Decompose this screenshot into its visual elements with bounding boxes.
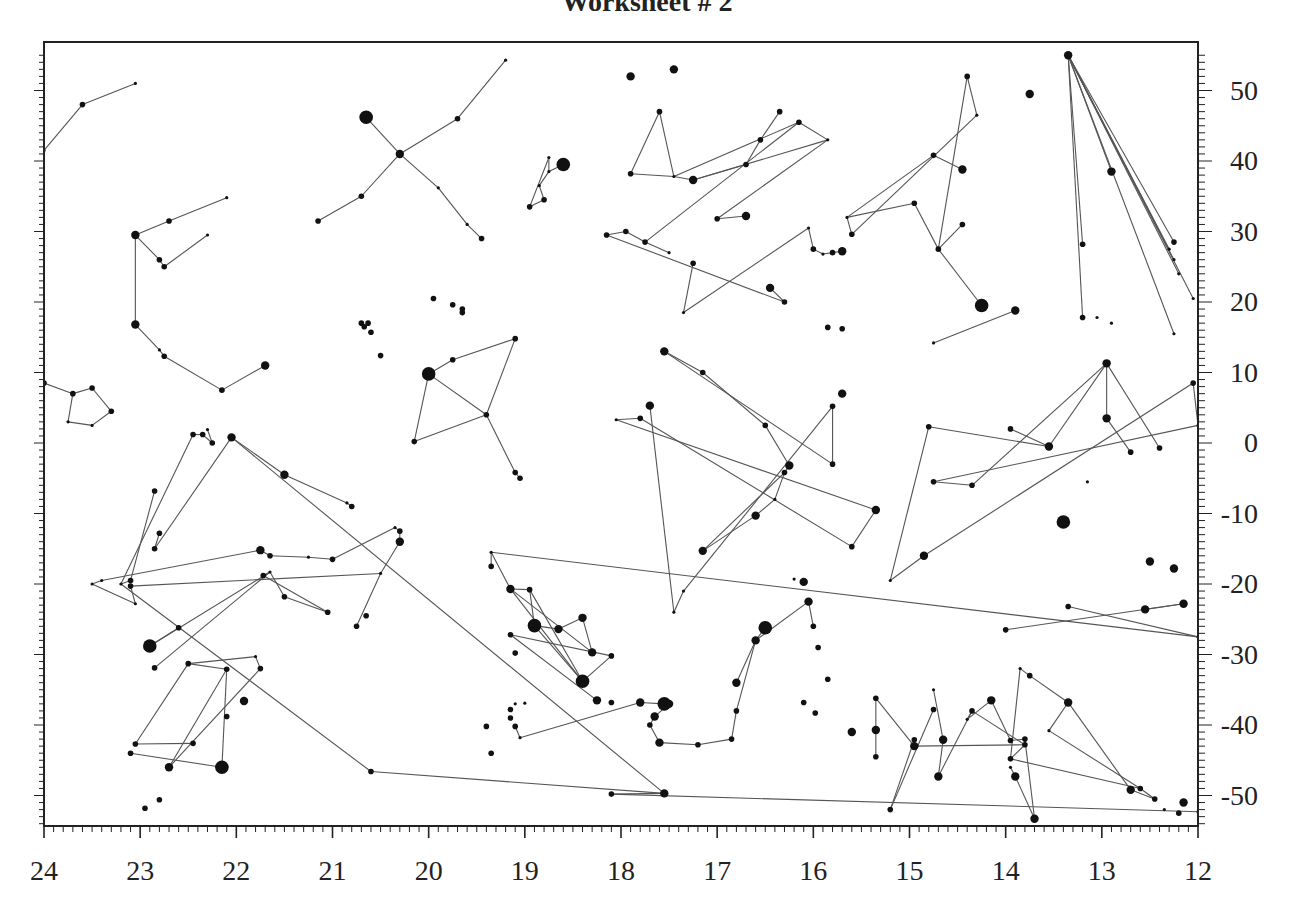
constellation-line: [438, 188, 467, 225]
constellation-line: [1068, 55, 1174, 242]
star-point: [128, 750, 134, 756]
star-point: [1179, 600, 1187, 608]
star-point: [682, 589, 685, 592]
star-point: [1008, 756, 1014, 762]
x-tick-label: 14: [992, 855, 1020, 886]
constellation-line: [318, 196, 361, 221]
star-point: [504, 59, 507, 62]
star-point: [887, 807, 893, 813]
star-point: [700, 370, 706, 376]
star-point: [1102, 414, 1110, 422]
star-point: [849, 232, 855, 238]
star-point: [593, 696, 601, 704]
star-point: [578, 614, 586, 622]
star-point: [158, 348, 161, 351]
constellation-line: [674, 122, 799, 176]
star-point: [143, 639, 157, 653]
y-tick-label: 20: [1230, 286, 1258, 317]
constellation-line: [131, 491, 155, 581]
constellation-line: [607, 232, 626, 236]
star-point: [225, 196, 228, 199]
star-point: [1171, 239, 1177, 245]
constellation-line: [82, 83, 135, 104]
constellation-line: [458, 60, 506, 119]
star-point: [512, 470, 518, 476]
star-point: [190, 432, 196, 438]
star-point: [647, 722, 653, 728]
star-point: [804, 597, 812, 605]
constellation-line: [972, 363, 1107, 485]
star-point: [785, 461, 793, 469]
star-point: [161, 264, 167, 270]
constellation-line: [1030, 676, 1068, 703]
star-point: [969, 483, 975, 489]
star-point: [801, 700, 807, 706]
constellation-line: [520, 702, 640, 737]
star-point: [912, 737, 918, 743]
star-point: [1102, 359, 1110, 367]
star-point: [260, 573, 266, 579]
star-point: [1080, 241, 1086, 247]
star-point: [396, 538, 404, 546]
star-point: [460, 310, 466, 316]
star-point: [670, 65, 678, 73]
star-point: [411, 439, 417, 445]
star-point: [466, 223, 469, 226]
star-point: [660, 347, 668, 355]
constellation-line: [684, 263, 694, 312]
star-point: [975, 299, 989, 313]
y-tick-label: -30: [1221, 639, 1258, 670]
star-point: [1027, 673, 1033, 679]
star-point: [615, 418, 618, 421]
constellation-line: [1010, 745, 1024, 759]
constellation-line: [640, 418, 852, 546]
star-point: [254, 655, 257, 658]
star-point: [839, 326, 845, 332]
star-point: [689, 176, 697, 184]
star-point: [157, 530, 163, 536]
constellation-line: [92, 411, 111, 425]
star-point: [393, 526, 396, 529]
constellation-line: [809, 228, 814, 249]
star-point: [1176, 810, 1182, 816]
star-point: [1008, 426, 1014, 432]
star-point: [557, 158, 571, 172]
constellation-line: [583, 618, 593, 653]
star-point: [969, 708, 975, 714]
constellation-line: [631, 174, 674, 177]
constellation-line: [135, 235, 159, 260]
star-point: [66, 420, 69, 423]
star-point: [934, 772, 942, 780]
y-tick-label: 0: [1244, 427, 1258, 458]
star-point: [1141, 605, 1149, 613]
star-point: [751, 511, 759, 519]
star-point: [157, 257, 163, 263]
star-point: [807, 226, 810, 229]
star-point: [815, 645, 821, 651]
star-point: [695, 742, 701, 748]
star-point: [224, 714, 230, 720]
constellation-line: [674, 591, 684, 612]
star-point: [609, 653, 615, 659]
star-point: [932, 688, 935, 691]
star-point: [508, 715, 514, 721]
star-point: [134, 602, 137, 605]
star-point: [646, 401, 654, 409]
star-point: [796, 119, 802, 125]
star-point: [742, 212, 750, 220]
star-point: [200, 432, 206, 438]
constellation-line: [270, 572, 284, 597]
star-point: [1168, 248, 1171, 251]
star-point: [345, 501, 348, 504]
constellation-line: [44, 383, 73, 394]
x-tick-label: 13: [1088, 855, 1116, 886]
constellation-line: [659, 743, 697, 745]
constellation-line: [934, 155, 963, 169]
star-point: [931, 479, 937, 485]
star-point: [939, 736, 947, 744]
star-point: [626, 72, 634, 80]
constellation-line: [934, 482, 972, 486]
constellation-line: [703, 373, 766, 426]
star-point: [1163, 808, 1166, 811]
star-point: [1146, 557, 1154, 565]
